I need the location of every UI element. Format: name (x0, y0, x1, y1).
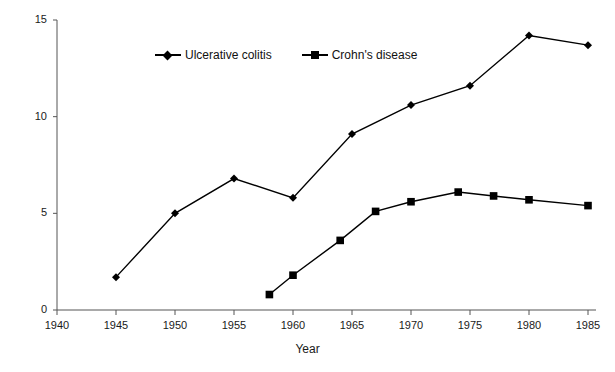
data-point-crohns-disease (407, 198, 415, 206)
data-point-crohns-disease (490, 192, 498, 200)
x-tick-label: 1970 (389, 320, 433, 331)
x-tick-label: 1955 (212, 320, 256, 331)
x-tick-label: 1960 (271, 320, 315, 331)
x-tick-label: 1950 (153, 320, 197, 331)
legend-item-crohns-disease: Crohn's disease (302, 48, 418, 62)
x-tick-label: 1980 (507, 320, 551, 331)
series-line-crohns-disease (269, 192, 588, 294)
series-line-ulcerative-colitis (116, 35, 588, 277)
x-tick-label: 1985 (566, 320, 610, 331)
chart-legend: Ulcerative colitis Crohn's disease (155, 48, 417, 62)
legend-label-ulcerative-colitis: Ulcerative colitis (185, 48, 272, 62)
data-point-ulcerative-colitis (584, 41, 592, 49)
data-point-ulcerative-colitis (407, 101, 415, 109)
y-tick-label: 15 (13, 14, 47, 25)
data-point-crohns-disease (266, 291, 274, 299)
data-point-crohns-disease (525, 196, 533, 204)
data-point-crohns-disease (372, 208, 380, 216)
data-point-crohns-disease (336, 237, 344, 245)
square-marker-icon (302, 49, 328, 61)
legend-item-ulcerative-colitis: Ulcerative colitis (155, 48, 272, 62)
y-tick-label: 10 (13, 111, 47, 122)
x-tick-label: 1975 (448, 320, 492, 331)
x-tick-label: 1940 (35, 320, 79, 331)
x-axis-title: Year (0, 342, 615, 356)
x-tick-label: 1945 (94, 320, 138, 331)
legend-label-crohns-disease: Crohn's disease (332, 48, 418, 62)
data-point-crohns-disease (454, 188, 462, 196)
diamond-marker-icon (155, 49, 181, 61)
y-tick-label: 0 (13, 304, 47, 315)
data-point-ulcerative-colitis (230, 175, 238, 183)
y-tick-label: 5 (13, 207, 47, 218)
data-point-crohns-disease (584, 202, 592, 210)
data-point-crohns-disease (289, 271, 297, 279)
x-tick-label: 1965 (330, 320, 374, 331)
line-chart: 051015 194019451950195519601965197019751… (0, 0, 615, 372)
